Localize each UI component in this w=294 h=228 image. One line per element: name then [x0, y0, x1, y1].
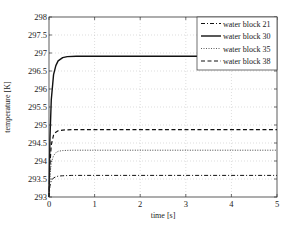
y-tick-label: 295.5: [28, 102, 47, 112]
y-tick-label: 293.5: [28, 174, 47, 184]
y-tick-label: 297.5: [28, 30, 47, 40]
series-line-dashdot: [49, 175, 277, 197]
x-tick-label: 4: [229, 199, 234, 209]
x-tick-label: 3: [184, 199, 188, 209]
line-chart: 012345 293293.5294294.5295295.5296296.52…: [0, 0, 294, 228]
x-tick-labels: 012345: [47, 199, 279, 209]
y-tick-labels: 293293.5294294.5295295.5296296.5297297.5…: [28, 12, 48, 202]
legend-label: water block 30: [223, 32, 271, 41]
x-tick-label: 0: [47, 199, 51, 209]
plot-series: [49, 56, 277, 197]
x-axis-label: time [s]: [151, 211, 176, 220]
y-axis-label: temperature [K]: [3, 81, 12, 133]
y-tick-label: 296.5: [28, 66, 47, 76]
series-line-dotted: [49, 150, 277, 197]
legend-label: water block 35: [223, 45, 271, 54]
legend: water block 21 water block 30 water bloc…: [197, 17, 277, 70]
y-tick-label: 294.5: [28, 138, 47, 148]
y-tick-label: 297: [34, 48, 47, 58]
y-tick-label: 294: [34, 156, 48, 166]
y-tick-label: 295: [34, 120, 47, 130]
y-tick-label: 298: [34, 12, 47, 22]
x-tick-label: 5: [275, 199, 279, 209]
legend-label: water block 21: [223, 20, 271, 29]
y-tick-label: 296: [34, 84, 47, 94]
series-line-dashed: [49, 130, 277, 197]
x-tick-label: 1: [92, 199, 96, 209]
legend-label: water block 38: [223, 57, 271, 66]
y-tick-label: 293: [34, 192, 47, 202]
x-tick-label: 2: [138, 199, 142, 209]
